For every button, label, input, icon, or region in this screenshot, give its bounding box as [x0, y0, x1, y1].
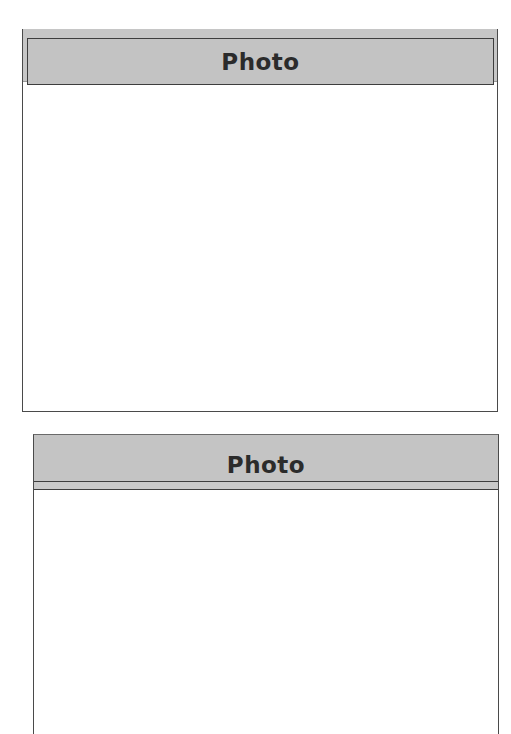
photo-panel-1: Photo	[22, 29, 498, 412]
photo-panel-1-header: Photo	[27, 38, 494, 85]
photo-panel-2-header: Photo	[34, 435, 498, 482]
photo-panel-2-title: Photo	[227, 454, 305, 477]
photo-panel-2: Photo	[33, 434, 499, 734]
photo-panel-1-image-area[interactable]	[23, 87, 497, 411]
photo-panel-1-title: Photo	[221, 51, 299, 74]
photo-panel-2-image-area[interactable]	[34, 491, 498, 734]
photo-panel-2-header-divider	[34, 482, 498, 490]
